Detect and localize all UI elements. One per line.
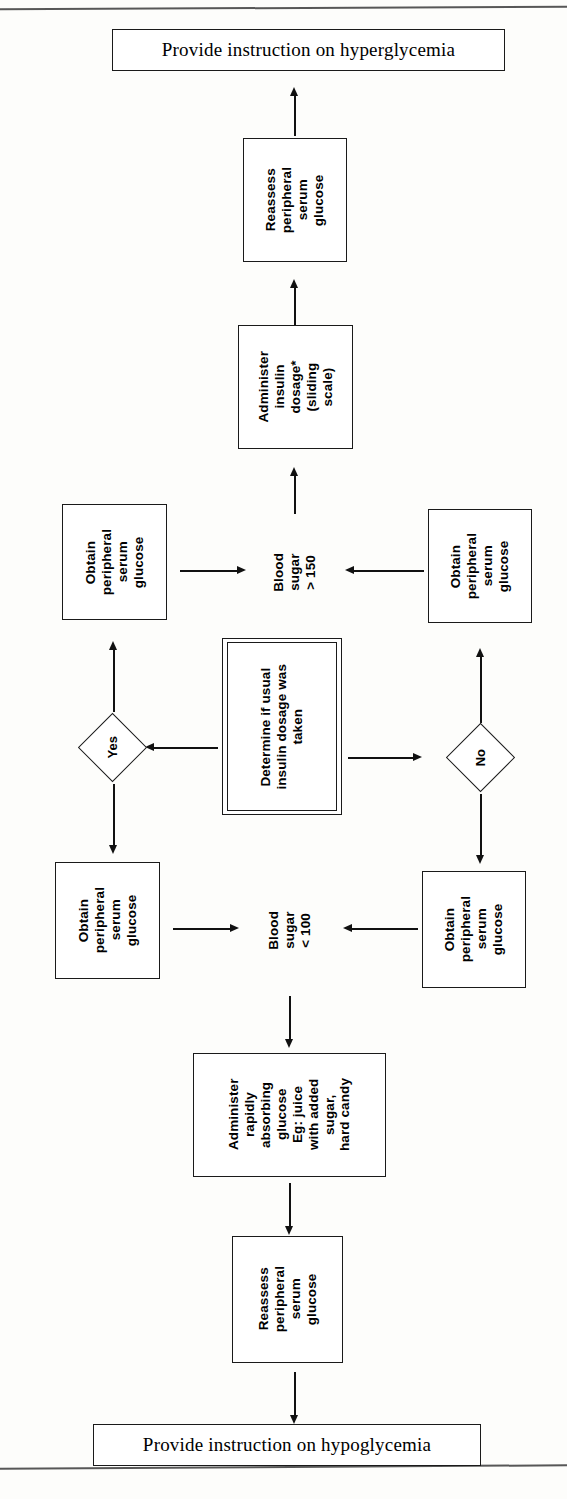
- decision-diamond-yes[interactable]: Yes: [78, 713, 147, 782]
- connector-yes-to-lowerleft: [113, 784, 115, 846]
- inner-frame: Determine if usual insulin dosage was ta…: [227, 642, 337, 811]
- arrowhead-left: [345, 566, 354, 574]
- node-label: Provide instruction on hypoglycemia: [143, 1434, 431, 1456]
- node-administer-insulin-dosage[interactable]: Administer insulin dosage* (sliding scal…: [238, 325, 353, 449]
- decision-diamond-no[interactable]: No: [446, 723, 515, 792]
- arrowhead-left: [343, 924, 352, 932]
- arrowhead-up: [290, 467, 298, 476]
- arrowhead-down: [285, 1226, 293, 1235]
- connector-upperleft-to-highsugar: [180, 570, 238, 572]
- node-obtain-peripheral-serum-glucose-lower-right[interactable]: Obtain peripheral serum glucose: [422, 871, 526, 988]
- arrowhead-down: [285, 1039, 293, 1048]
- node-determine-insulin-dosage-taken[interactable]: Determine if usual insulin dosage was ta…: [222, 638, 342, 815]
- node-blood-sugar-low: Blood sugar < 100: [257, 878, 323, 982]
- connector-center-to-yes: [152, 747, 218, 749]
- node-label: Blood sugar > 150: [271, 553, 319, 592]
- arrowhead-up: [290, 279, 298, 288]
- node-label: Blood sugar < 100: [266, 911, 314, 950]
- diamond-label: No: [473, 749, 488, 766]
- node-obtain-peripheral-serum-glucose-upper-left[interactable]: Obtain peripheral serum glucose: [62, 504, 167, 620]
- connector-insulin-to-reassess: [294, 286, 296, 326]
- node-reassess-peripheral-serum-glucose-top[interactable]: Reassess peripheral serum glucose: [243, 138, 347, 262]
- diamond-label-text: Yes: [105, 736, 120, 758]
- node-provide-instruction-hypoglycemia[interactable]: Provide instruction on hypoglycemia: [93, 1424, 481, 1466]
- arrowhead-up: [109, 641, 117, 650]
- arrowhead-down: [290, 1415, 298, 1424]
- node-reassess-peripheral-serum-glucose-bottom[interactable]: Reassess peripheral serum glucose: [232, 1236, 343, 1363]
- node-blood-sugar-high: Blood sugar > 150: [262, 520, 328, 624]
- arrowhead-up: [290, 87, 298, 96]
- arrowhead-up: [476, 648, 484, 657]
- node-label: Determine if usual insulin dosage was ta…: [258, 664, 306, 790]
- diamond-label-text: No: [473, 749, 488, 766]
- node-administer-rapidly-absorbing-glucose[interactable]: Administer rapidly absorbing glucose Eg:…: [193, 1053, 386, 1177]
- connector-lowerright-to-lowsugar: [350, 928, 418, 930]
- node-obtain-peripheral-serum-glucose-lower-left[interactable]: Obtain peripheral serum glucose: [55, 862, 160, 979]
- arrowhead-right: [237, 566, 246, 574]
- connector-administer-to-reassess-bottom: [289, 1183, 291, 1227]
- diamond-label: Yes: [105, 736, 120, 758]
- arrowhead-right: [413, 753, 422, 761]
- node-label: Administer rapidly absorbing glucose Eg:…: [226, 1078, 353, 1151]
- node-label: Provide instruction on hyperglycemia: [162, 39, 455, 61]
- node-label: Administer insulin dosage* (sliding scal…: [256, 351, 336, 423]
- connector-lowerleft-to-lowsugar: [173, 928, 231, 930]
- arrowhead-right: [230, 924, 239, 932]
- node-label: Reassess peripheral serum glucose: [263, 167, 327, 233]
- node-label: Obtain peripheral serum glucose: [76, 887, 140, 953]
- connector-reassess-to-hypoglycemia: [294, 1372, 296, 1416]
- node-provide-instruction-hyperglycemia[interactable]: Provide instruction on hyperglycemia: [112, 29, 505, 71]
- node-label: Obtain peripheral serum glucose: [448, 533, 512, 599]
- connector-no-to-upperright: [480, 655, 482, 723]
- connector-no-to-lowerright: [480, 794, 482, 856]
- connector-center-to-no: [348, 757, 414, 759]
- connector-reassess-to-hyperglycemia: [294, 94, 296, 136]
- connector-upperright-to-highsugar: [352, 570, 424, 572]
- arrowhead-down: [109, 845, 117, 854]
- page-rule-top: [0, 6, 567, 10]
- flowchart-page: Provide instruction on hyperglycemia Rea…: [0, 0, 567, 1499]
- connector-yes-to-upperleft: [113, 648, 115, 712]
- node-obtain-peripheral-serum-glucose-upper-right[interactable]: Obtain peripheral serum glucose: [428, 509, 532, 623]
- node-label: Reassess peripheral serum glucose: [256, 1266, 320, 1332]
- connector-lowsugar-to-administer-glucose: [289, 996, 291, 1040]
- connector-highsugar-to-insulin: [294, 474, 296, 514]
- node-label: Obtain peripheral serum glucose: [442, 896, 506, 962]
- arrowhead-down: [476, 855, 484, 864]
- node-label: Obtain peripheral serum glucose: [83, 529, 147, 595]
